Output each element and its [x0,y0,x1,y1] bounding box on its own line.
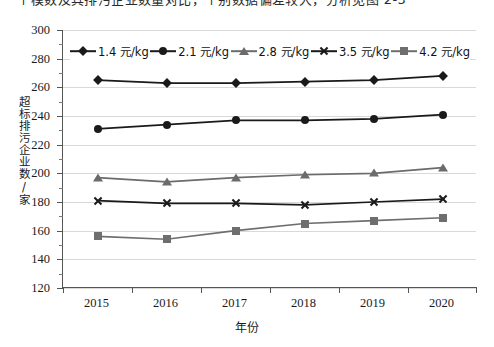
series-line-2 [98,168,443,182]
series-line-3 [98,199,443,205]
legend-item-2[interactable]: 2.8 元/kg [231,43,310,59]
legend-label: 3.5 元/kg [339,43,390,59]
series-line-1 [98,115,443,129]
x-axis-tick-labels: 201520162017201820192020 [62,296,476,314]
data-point-marker [370,115,378,123]
data-point-marker [438,194,448,204]
data-point-marker [94,125,102,133]
y-axis-tick-label: 140 [31,252,50,267]
series-lines [63,30,477,288]
data-point-marker [439,214,447,222]
data-point-marker [231,198,241,208]
chart-legend: 1.4 元/kg2.1 元/kg2.8 元/kg3.5 元/kg4.2 元/kg [70,41,470,61]
x-axis-tick-label: 2020 [429,296,454,311]
x-axis-tick-label: 2017 [222,296,247,311]
y-axis-tick-label: 120 [31,281,50,296]
data-point-marker [300,170,310,178]
x-axis-title: 年份 [0,318,494,335]
y-axis-tick-label: 280 [31,51,50,66]
data-point-marker [93,173,103,181]
legend-label: 1.4 元/kg [98,43,149,59]
y-axis-tick-label: 300 [31,23,50,38]
y-axis-tick-label: 200 [31,166,50,181]
y-axis-tick-label: 240 [31,109,50,124]
data-point-marker [231,173,241,181]
chart-page: 一个模数及其排污企业数量对比，个别数据偏差较大，分析见图 2-3 1201401… [0,0,494,347]
data-point-marker [163,121,171,129]
legend-item-3[interactable]: 3.5 元/kg [311,43,390,59]
data-point-marker [370,217,378,225]
y-axis-tick-label: 180 [31,195,50,210]
y-axis-tick-label: 160 [31,223,50,238]
legend-marker-cross-icon [311,45,337,57]
legend-marker-triangle-icon [231,45,257,57]
legend-label: 2.8 元/kg [259,43,310,59]
legend-label: 2.1 元/kg [178,43,229,59]
legend-item-0[interactable]: 1.4 元/kg [70,43,149,59]
data-point-marker [232,227,240,235]
y-axis-title: 超标排污企业数/家 [14,96,30,206]
x-axis-tick-label: 2018 [291,296,316,311]
plot-canvas [63,30,476,287]
data-point-marker [439,111,447,119]
series-line-4 [98,218,443,240]
y-axis-tick-label: 220 [31,137,50,152]
series-line-0 [98,76,443,83]
legend-marker-diamond-icon [70,45,96,57]
x-axis-tick-label: 2016 [153,296,178,311]
data-point-marker [163,235,171,243]
data-point-marker [301,116,309,124]
legend-marker-square-icon [391,45,417,57]
data-point-marker [300,200,310,210]
legend-label: 4.2 元/kg [419,43,470,59]
x-axis-tick-label: 2019 [360,296,385,311]
legend-item-1[interactable]: 2.1 元/kg [150,43,229,59]
data-point-marker [94,232,102,240]
data-point-marker [232,116,240,124]
clipped-top-text-strip: 一个模数及其排污企业数量对比，个别数据偏差较大，分析见图 2-3 [0,0,494,14]
legend-item-4[interactable]: 4.2 元/kg [391,43,470,59]
data-point-marker [301,220,309,228]
data-point-marker [162,198,172,208]
data-point-marker [162,178,172,186]
legend-marker-circle-icon [150,45,176,57]
data-point-marker [369,197,379,207]
plot-area [62,30,476,288]
data-point-marker [369,169,379,177]
clipped-top-text: 一个模数及其排污企业数量对比，个别数据偏差较大，分析见图 2-3 [4,0,406,8]
x-axis-tick-label: 2015 [84,296,109,311]
data-point-marker [438,163,448,171]
y-axis-tick-label: 260 [31,80,50,95]
data-point-marker [93,196,103,206]
